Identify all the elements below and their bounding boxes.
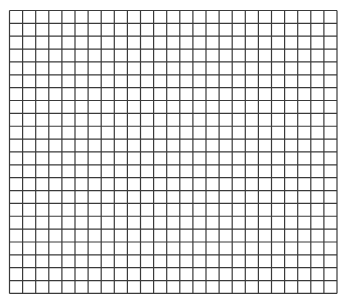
graph-paper-grid bbox=[0, 0, 346, 305]
grid-lines bbox=[10, 11, 338, 294]
